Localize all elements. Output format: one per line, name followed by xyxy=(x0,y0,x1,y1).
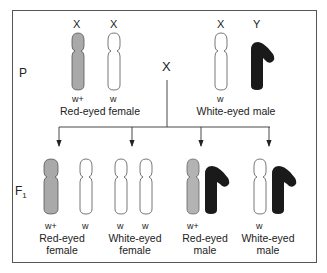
allele-label: w xyxy=(256,220,263,232)
chromosome-x-white-allele xyxy=(108,33,120,90)
phenotype-line2: female xyxy=(107,244,163,256)
chromosome-x-red-allele xyxy=(187,159,199,214)
generation-label-subscript: 1 xyxy=(22,191,26,200)
phenotype-label-white-eyed-female: White-eyed female xyxy=(107,232,163,256)
chromosome-y xyxy=(251,42,274,90)
allele-label: w+ xyxy=(187,220,199,232)
allele-label: w xyxy=(110,93,117,105)
phenotype-label-red-eyed-male: Red-eyed male xyxy=(181,232,229,256)
phenotype-label-red-eyed-female: Red-eyed female xyxy=(60,105,140,117)
allele-label: w+ xyxy=(72,93,84,105)
allele-label: w xyxy=(82,220,89,232)
chromosome-x-white-allele xyxy=(215,33,227,90)
allele-label: w xyxy=(117,220,124,232)
phenotype-label-white-eyed-male: White-eyed male xyxy=(196,105,276,117)
allele-label: w+ xyxy=(45,220,57,232)
generation-label-f1: F1 xyxy=(15,185,27,202)
phenotype-line1: Red-eyed xyxy=(181,232,229,244)
phenotype-line2: male xyxy=(240,244,296,256)
chrom-label-x: X xyxy=(110,18,117,30)
phenotype-line2: male xyxy=(181,244,229,256)
phenotype-label-red-eyed-female: Red-eyed female xyxy=(38,232,86,256)
allele-label: w xyxy=(217,93,224,105)
chromosome-x-white-allele xyxy=(115,159,127,214)
generation-label-p: P xyxy=(19,67,27,79)
chrom-label-x: X xyxy=(217,18,224,30)
chrom-label-y: Y xyxy=(253,18,260,30)
phenotype-label-white-eyed-male: White-eyed male xyxy=(240,232,296,256)
chromosome-x-white-allele xyxy=(140,159,152,214)
chromosome-x-white-allele xyxy=(254,159,266,214)
chromosome-x-red-allele xyxy=(72,33,84,90)
chrom-label-x: X xyxy=(73,18,80,30)
chromosome-x-red-allele xyxy=(44,159,58,214)
chromosome-y xyxy=(205,166,229,214)
allele-label: w xyxy=(142,220,149,232)
phenotype-line1: White-eyed xyxy=(107,232,163,244)
cross-symbol: X xyxy=(162,61,171,73)
phenotype-line2: female xyxy=(38,244,86,256)
chromosome-x-white-allele xyxy=(80,159,92,214)
phenotype-line1: Red-eyed xyxy=(38,232,86,244)
chromosome-y xyxy=(272,166,296,214)
phenotype-line1: White-eyed xyxy=(240,232,296,244)
